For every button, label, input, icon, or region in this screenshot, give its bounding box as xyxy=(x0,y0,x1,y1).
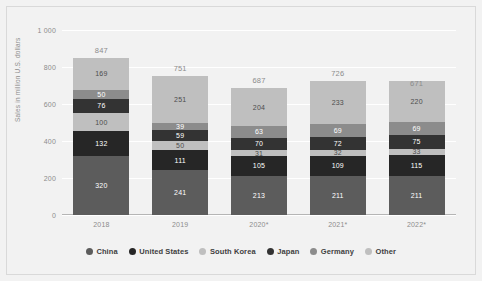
bar-segment-label: 69 xyxy=(413,125,421,132)
x-axis-tick-label: 2019 xyxy=(152,221,208,228)
bar-segment[interactable]: 132 xyxy=(73,131,129,155)
bar-segment-label: 105 xyxy=(253,162,265,169)
bar-segment-label: 50 xyxy=(176,142,184,149)
bar-segment-label: 70 xyxy=(255,140,263,147)
bar-segment[interactable]: 39 xyxy=(152,123,208,130)
y-axis-tick-label: 200 xyxy=(16,175,56,182)
bar-stack: 1695076100132320 xyxy=(73,58,129,215)
bar-segment-label: 63 xyxy=(255,128,263,135)
bar-stack: 220697533115211 xyxy=(389,81,445,215)
chart-legend: ChinaUnited StatesSouth KoreaJapanGerman… xyxy=(0,247,482,256)
legend-color-dot xyxy=(267,248,274,255)
bar-segment[interactable]: 169 xyxy=(73,58,129,89)
bar-segment-label: 132 xyxy=(95,140,107,147)
bar-segment[interactable]: 109 xyxy=(310,156,366,176)
bar-segment[interactable]: 211 xyxy=(389,176,445,215)
legend-color-dot xyxy=(199,248,206,255)
bar-segment[interactable]: 233 xyxy=(310,81,366,124)
bar-total-label: 751 xyxy=(152,64,208,73)
bar-stack: 251395950111241 xyxy=(152,76,208,215)
bar-segment-label: 109 xyxy=(332,162,344,169)
gridline xyxy=(62,30,456,31)
bar-total-label: 847 xyxy=(73,46,129,55)
x-axis-tick-label: 2018 xyxy=(73,221,129,228)
bar-stack: 233697232109211 xyxy=(310,81,366,215)
bar-segment-label: 233 xyxy=(332,99,344,106)
y-axis-tick-label: 400 xyxy=(16,138,56,145)
bar-segment[interactable]: 69 xyxy=(389,122,445,135)
x-axis-tick-label: 2020* xyxy=(231,221,287,228)
legend-color-dot xyxy=(86,248,93,255)
bar-segment[interactable]: 70 xyxy=(231,138,287,151)
bar-segment-label: 220 xyxy=(410,98,422,105)
x-axis-tick-label: 2021* xyxy=(310,221,366,228)
bar-segment[interactable]: 50 xyxy=(73,90,129,99)
bar-total-label: 687 xyxy=(231,76,287,85)
bar-segment-label: 111 xyxy=(175,157,186,164)
legend-item[interactable]: United States xyxy=(129,247,189,256)
bar-segment[interactable]: 241 xyxy=(152,170,208,215)
bar-segment-label: 320 xyxy=(95,182,107,189)
bar-segment[interactable]: 63 xyxy=(231,126,287,138)
bar-segment[interactable]: 69 xyxy=(310,124,366,137)
bar-segment-label: 211 xyxy=(411,192,423,199)
plot-area: 1695076100132320847251395950111241751204… xyxy=(62,30,456,215)
bar-segment[interactable]: 115 xyxy=(389,155,445,176)
bar-segment[interactable]: 211 xyxy=(310,176,366,215)
bar-segment[interactable]: 100 xyxy=(73,113,129,132)
bar-segment[interactable]: 251 xyxy=(152,76,208,122)
bar-segment[interactable]: 105 xyxy=(231,156,287,175)
bar-segment[interactable]: 72 xyxy=(310,137,366,150)
legend-label: China xyxy=(96,247,117,256)
legend-item[interactable]: Japan xyxy=(267,247,300,256)
legend-item[interactable]: Other xyxy=(365,247,396,256)
bar-segment[interactable]: 111 xyxy=(152,150,208,171)
legend-item[interactable]: South Korea xyxy=(199,247,255,256)
bar-segment-label: 69 xyxy=(334,127,342,134)
legend-label: Japan xyxy=(277,247,299,256)
bar-segment[interactable]: 76 xyxy=(73,99,129,113)
bar-segment[interactable]: 204 xyxy=(231,88,287,126)
bar-segment-label: 251 xyxy=(174,96,186,103)
gridline xyxy=(62,215,456,216)
y-axis-title: Sales in million U.S. dollars xyxy=(14,37,21,122)
bar-total-label: 726 xyxy=(310,69,366,78)
legend-label: South Korea xyxy=(210,247,256,256)
bar-segment-label: 115 xyxy=(411,162,423,169)
bar-segment-label: 241 xyxy=(174,189,186,196)
bar-segment[interactable]: 59 xyxy=(152,130,208,141)
x-axis-tick-label: 2022* xyxy=(389,221,445,228)
legend-item[interactable]: Germany xyxy=(310,247,354,256)
bar-segment[interactable]: 50 xyxy=(152,141,208,150)
legend-label: United States xyxy=(139,247,188,256)
chart-container: Sales in million U.S. dollars 0200400600… xyxy=(0,0,482,281)
legend-label: Germany xyxy=(321,247,354,256)
legend-color-dot xyxy=(129,248,136,255)
bar-segment-label: 59 xyxy=(176,132,184,139)
legend-color-dot xyxy=(365,248,372,255)
bar-segment-label: 213 xyxy=(253,192,265,199)
bar-stack: 204637031105213 xyxy=(231,88,287,215)
legend-label: Other xyxy=(376,247,397,256)
y-axis-tick-label: 0 xyxy=(16,212,56,219)
bar-segment[interactable]: 75 xyxy=(389,135,445,149)
y-axis-tick-label: 800 xyxy=(16,64,56,71)
bar-segment-label: 75 xyxy=(413,138,421,145)
bar-segment-label: 39 xyxy=(176,123,184,130)
bar-segment[interactable]: 213 xyxy=(231,176,287,215)
bar-segment-label: 169 xyxy=(95,70,107,77)
y-axis-tick-label: 600 xyxy=(16,101,56,108)
bar-segment-label: 204 xyxy=(253,104,265,111)
bar-segment-label: 72 xyxy=(334,140,342,147)
bar-segment-label: 50 xyxy=(97,91,105,98)
bar-total-label: 671 xyxy=(389,79,445,88)
y-axis-tick-label: 1 000 xyxy=(16,27,56,34)
bar-segment[interactable]: 320 xyxy=(73,156,129,215)
bar-segment-label: 211 xyxy=(332,192,344,199)
bar-segment-label: 76 xyxy=(97,102,105,109)
legend-color-dot xyxy=(310,248,317,255)
legend-item[interactable]: China xyxy=(86,247,118,256)
bar-segment-label: 100 xyxy=(95,119,107,126)
